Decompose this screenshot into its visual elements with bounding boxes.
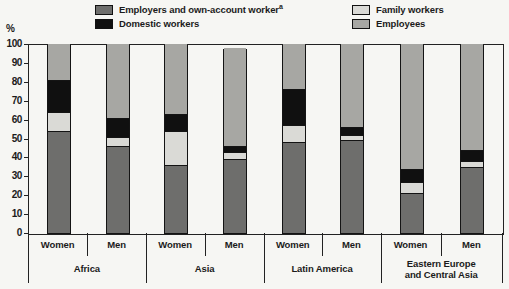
x-label-women-asia: Women: [146, 237, 205, 252]
segment-domestic-workers: [165, 114, 187, 131]
segment-domestic-workers: [401, 169, 423, 182]
segment-domestic-workers: [341, 127, 363, 135]
y-tick-mark-20: [24, 195, 28, 196]
y-tick-mark-10: [24, 214, 28, 215]
x-label-women-africa: Women: [28, 237, 87, 252]
segment-employees: [401, 44, 423, 169]
bar-latin-america-women: [282, 45, 306, 234]
bar-asia-women: [164, 45, 188, 234]
y-tick-label-30: 30: [1, 171, 22, 181]
y-tick-label-60: 60: [1, 115, 22, 125]
legend-item-domestic: Domestic workers: [95, 18, 199, 29]
segment-employees: [341, 44, 363, 127]
region-divider: [502, 233, 503, 283]
x-label-men-eastern-europe: Men: [441, 237, 503, 252]
legend-label: Family workers: [376, 4, 444, 15]
y-tick-mark-100: [24, 44, 28, 45]
employers-swatch: [95, 5, 113, 15]
segment-employees: [107, 44, 129, 118]
x-label-men-africa: Men: [87, 237, 145, 252]
segment-employees: [283, 44, 305, 89]
sex-divider: [441, 233, 442, 256]
segment-family-workers: [165, 131, 187, 165]
y-tick-mark-70: [24, 101, 28, 102]
x-label-men-latin-america: Men: [322, 237, 381, 252]
segment-employers-own-account: [224, 159, 246, 233]
chart: Employers and own-account workera Domest…: [0, 0, 509, 289]
plot-area: [28, 44, 504, 235]
y-tick-label-20: 20: [1, 190, 22, 200]
segment-employees: [461, 44, 483, 150]
y-tick-label-0: 0: [1, 228, 22, 238]
y-tick-mark-40: [24, 157, 28, 158]
employees-swatch: [352, 19, 370, 29]
y-tick-label-80: 80: [1, 77, 22, 87]
segment-domestic-workers: [461, 150, 483, 161]
region-divider: [28, 233, 29, 283]
y-tick-mark-60: [24, 120, 28, 121]
legend-item-employees: Employees: [352, 18, 425, 29]
segment-domestic-workers: [48, 80, 70, 112]
segment-family-workers: [283, 125, 305, 142]
region-divider: [146, 233, 147, 283]
region-label-africa: Africa: [28, 256, 146, 282]
segment-employers-own-account: [283, 142, 305, 233]
segment-family-workers: [48, 112, 70, 131]
x-label-women-latin-america: Women: [264, 237, 323, 252]
family-swatch: [352, 5, 370, 15]
segment-employees: [224, 48, 246, 146]
legend-label: Employees: [376, 18, 425, 29]
y-tick-label-100: 100: [1, 39, 22, 49]
y-tick-label-90: 90: [1, 58, 22, 68]
y-tick-mark-30: [24, 176, 28, 177]
segment-employees: [165, 44, 187, 114]
y-tick-label-50: 50: [1, 134, 22, 144]
domestic-swatch: [95, 19, 113, 29]
region-divider: [381, 233, 382, 283]
x-label-women-eastern-europe: Women: [381, 237, 441, 252]
y-tick-mark-90: [24, 63, 28, 64]
segment-family-workers: [224, 152, 246, 160]
bar-asia-men: [223, 49, 247, 234]
segment-domestic-workers: [283, 89, 305, 125]
legend-item-family: Family workers: [352, 4, 444, 15]
bar-latin-america-men: [340, 45, 364, 234]
segment-family-workers: [107, 137, 129, 146]
region-divider: [264, 233, 265, 283]
y-tick-mark-80: [24, 82, 28, 83]
segment-employers-own-account: [461, 167, 483, 233]
segment-employers-own-account: [341, 140, 363, 233]
region-label-asia: Asia: [146, 256, 264, 282]
segment-employers-own-account: [107, 146, 129, 233]
segment-family-workers: [401, 182, 423, 193]
bar-africa-women: [47, 45, 71, 234]
bar-eastern-europe-women: [400, 45, 424, 234]
segment-domestic-workers: [107, 118, 129, 137]
segment-employers-own-account: [165, 165, 187, 233]
sex-divider: [87, 233, 88, 256]
segment-employers-own-account: [401, 193, 423, 233]
y-tick-label-70: 70: [1, 96, 22, 106]
legend-label: Domestic workers: [119, 18, 199, 29]
legend-item-employers: Employers and own-account workera: [95, 4, 283, 15]
region-label-eastern-europe: Eastern Europe and Central Asia: [381, 256, 503, 282]
region-label-latin-america: Latin America: [264, 256, 381, 282]
sex-divider: [205, 233, 206, 256]
bar-africa-men: [106, 45, 130, 234]
y-tick-label-40: 40: [1, 152, 22, 162]
segment-employees: [48, 44, 70, 80]
x-label-men-asia: Men: [205, 237, 264, 252]
sex-divider: [322, 233, 323, 256]
y-tick-mark-50: [24, 139, 28, 140]
y-axis-unit-label: %: [6, 23, 15, 34]
legend-label: Employers and own-account workera: [119, 4, 283, 15]
bar-eastern-europe-men: [460, 45, 484, 234]
segment-employers-own-account: [48, 131, 70, 233]
y-tick-label-10: 10: [1, 209, 22, 219]
